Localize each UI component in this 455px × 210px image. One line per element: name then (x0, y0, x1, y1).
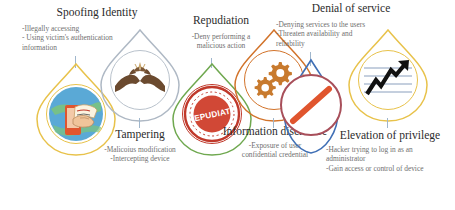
threat-title-elevation-of-privilege: Elevation of privilege (326, 128, 454, 142)
stride-threat-diagram: Spoofing Identity -Illegally accessing -… (0, 0, 455, 210)
threat-pin-elevation-of-privilege (346, 28, 430, 124)
connector-elevation-of-privilege (387, 118, 388, 128)
threat-title-spoofing: Spoofing Identity (22, 6, 172, 19)
threat-desc-eop-line-1: administrator (326, 154, 454, 163)
prohibition-sign-icon (282, 76, 340, 134)
icon-circle-tampering (110, 50, 170, 110)
threat-title-denial-of-service: Denial of service (270, 2, 432, 15)
rising-arrow-chart-icon (362, 58, 414, 102)
connector-tampering (139, 118, 140, 128)
threat-desc-eop-line-0: -Hacker trying to log in as an (326, 145, 454, 154)
icon-circle-denial-of-service (280, 74, 342, 136)
threat-label-elevation-of-privilege: Elevation of privilege -Hacker trying to… (326, 128, 454, 173)
threat-desc-eop-line-2: -Gain access or control of device (326, 164, 454, 173)
icon-circle-elevation-of-privilege (358, 50, 418, 110)
threat-title-repudiation: Repudiation (158, 14, 284, 27)
gloved-hands-icon (113, 60, 167, 100)
